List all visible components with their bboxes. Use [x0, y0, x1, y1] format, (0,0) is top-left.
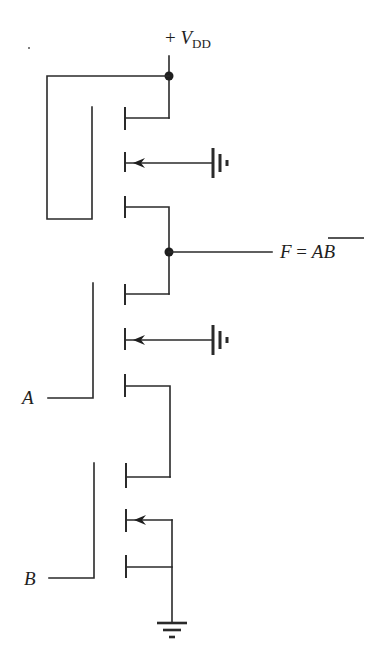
stray-dot [28, 47, 30, 49]
transistor-t2 [125, 284, 213, 477]
t2-source-wire [125, 386, 170, 477]
ground-icon [213, 325, 227, 355]
nand-gate-schematic: + VDD F = AB [0, 0, 376, 666]
gate-a-wire [48, 283, 93, 398]
vdd-prefix: + [165, 27, 180, 48]
svg-text:+ VDD: + VDD [165, 27, 211, 51]
input-a: A [20, 283, 93, 408]
vdd-label: + VDD [165, 27, 211, 51]
t1-source-wire [125, 207, 169, 294]
transistor-t1 [125, 107, 213, 294]
ground-icon [157, 623, 187, 637]
output-expression: AB [310, 241, 336, 262]
gate-b-wire [49, 463, 94, 578]
input-b-label: B [24, 568, 36, 589]
output-name: F [279, 241, 292, 262]
ground-icon [213, 148, 227, 178]
input-a-label: A [20, 387, 34, 408]
svg-text:F = AB: F = AB [279, 241, 335, 262]
output-label: F = AB [279, 238, 364, 262]
output-equals: = [292, 241, 312, 262]
transistor-t3 [126, 463, 172, 578]
load-gate-feedback-wire [47, 76, 169, 219]
vdd-subscript: DD [192, 36, 211, 51]
input-b: B [24, 463, 94, 589]
